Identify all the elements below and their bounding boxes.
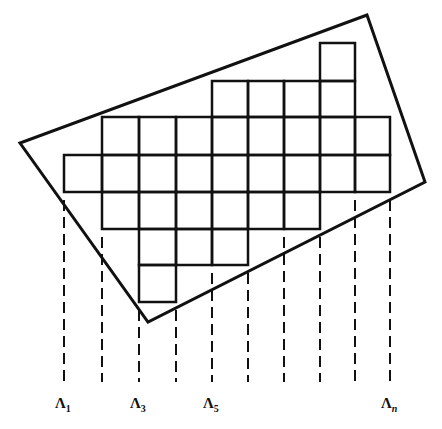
grid-cell [139,265,176,302]
grid-cell [212,229,248,265]
grid-cell [102,117,139,155]
grid-cell [212,81,248,117]
grid-cell [320,43,355,81]
grid-cell [139,192,176,229]
rotated-rectangle [20,15,425,322]
grid-cell [139,117,176,155]
pixel-grid [64,43,390,302]
grid-cell [212,155,248,192]
grid-cell [176,117,212,155]
grid-cell [320,117,355,155]
grid-cell [320,81,355,117]
grid-cell [355,155,390,192]
grid-cell [284,155,320,192]
label-lambda-n: Λn [381,395,398,414]
grid-cell [284,192,320,229]
grid-cell [248,155,284,192]
label-lambda-5: Λ5 [203,395,219,414]
grid-cell [284,81,320,117]
dashed-projection-lines [64,200,390,382]
grid-cell [139,229,176,265]
grid-cell [102,192,139,229]
projection-diagram: Λ1 Λ3 Λ5 Λn [0,0,442,429]
grid-cell [284,117,320,155]
grid-cell [248,192,284,229]
grid-cell [176,155,212,192]
grid-cell [139,155,176,192]
grid-cell [176,229,212,265]
grid-cell [355,117,390,155]
grid-cell [320,155,355,192]
label-lambda-1: Λ1 [55,395,71,414]
grid-cell [64,155,102,192]
label-lambda-3: Λ3 [130,395,146,414]
grid-cell [248,81,284,117]
lambda-labels: Λ1 Λ3 Λ5 Λn [55,395,398,414]
grid-cell [248,117,284,155]
grid-cell [102,155,139,192]
grid-cell [212,117,248,155]
grid-cell [212,192,248,229]
grid-cell [176,192,212,229]
